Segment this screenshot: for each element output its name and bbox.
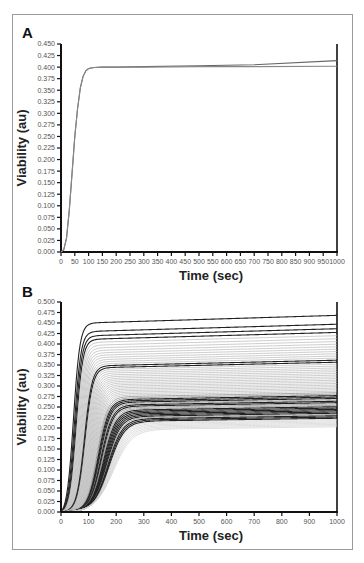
- x-tick-label: 200: [110, 258, 122, 265]
- x-tick-label: 500: [193, 258, 205, 265]
- y-tick-label: 0.200: [37, 156, 55, 163]
- y-tick-label: 0.425: [37, 52, 55, 59]
- x-tick-label: 0: [59, 518, 63, 525]
- y-tick-label: 0.400: [37, 64, 55, 71]
- y-tick-label: 0.150: [37, 445, 55, 452]
- x-tick-label: 300: [138, 518, 150, 525]
- chart-panel-b: 0.0000.0250.0500.0750.1000.1250.1500.175…: [14, 283, 345, 543]
- x-tick-label: 600: [221, 518, 233, 525]
- x-tick-label: 900: [304, 518, 316, 525]
- y-tick-label: 0.075: [37, 477, 55, 484]
- x-tick-label: 300: [138, 258, 150, 265]
- panel-label: B: [22, 283, 33, 300]
- y-tick-label: 0.400: [37, 340, 55, 347]
- y-tick-label: 0.250: [37, 403, 55, 410]
- x-tick-label: 600: [221, 258, 233, 265]
- y-tick-label: 0.075: [37, 214, 55, 221]
- x-tick-label: 500: [193, 518, 205, 525]
- y-tick-label: 0.100: [37, 202, 55, 209]
- y-tick-label: 0.375: [37, 351, 55, 358]
- x-tick-label: 400: [166, 518, 178, 525]
- y-tick-label: 0.325: [37, 98, 55, 105]
- x-tick-label: 1000: [329, 258, 345, 265]
- y-tick-label: 0.350: [37, 87, 55, 94]
- y-tick-label: 0.025: [37, 237, 55, 244]
- chart-panel-a: 0.0000.0250.0500.0750.1000.1250.1500.175…: [14, 24, 345, 283]
- x-tick-label: 800: [276, 258, 288, 265]
- x-tick-label: 350: [152, 258, 164, 265]
- series-line: [61, 61, 337, 252]
- y-axis-title: Viability (au): [14, 368, 29, 445]
- y-tick-label: 0.175: [37, 435, 55, 442]
- x-tick-label: 950: [317, 258, 329, 265]
- x-tick-label: 750: [262, 258, 274, 265]
- y-tick-label: 0.250: [37, 133, 55, 140]
- y-tick-label: 0.500: [37, 298, 55, 305]
- y-tick-label: 0.350: [37, 361, 55, 368]
- x-tick-label: 150: [97, 258, 109, 265]
- y-tick-label: 0.425: [37, 330, 55, 337]
- x-tick-label: 50: [71, 258, 79, 265]
- x-tick-label: 850: [290, 258, 302, 265]
- y-tick-label: 0.200: [37, 424, 55, 431]
- figure-svg: 0.0000.0250.0500.0750.1000.1250.1500.175…: [0, 0, 364, 563]
- y-tick-label: 0.275: [37, 393, 55, 400]
- panel-label: A: [22, 24, 33, 41]
- x-tick-label: 100: [83, 258, 95, 265]
- y-tick-label: 0.125: [37, 191, 55, 198]
- y-tick-label: 0.300: [37, 382, 55, 389]
- x-tick-label: 650: [235, 258, 247, 265]
- x-tick-label: 0: [59, 258, 63, 265]
- y-tick-label: 0.475: [37, 309, 55, 316]
- x-tick-label: 1000: [329, 518, 345, 525]
- x-tick-label: 700: [248, 518, 260, 525]
- y-tick-label: 0.025: [37, 498, 55, 505]
- x-tick-label: 900: [304, 258, 316, 265]
- x-axis-title: Time (sec): [179, 268, 243, 283]
- y-tick-label: 0.375: [37, 75, 55, 82]
- y-tick-label: 0.125: [37, 456, 55, 463]
- series-line: [61, 66, 337, 252]
- y-tick-label: 0.450: [37, 319, 55, 326]
- y-tick-label: 0.000: [37, 248, 55, 255]
- y-tick-label: 0.100: [37, 466, 55, 473]
- y-tick-label: 0.000: [37, 508, 55, 515]
- y-tick-label: 0.450: [37, 40, 55, 47]
- x-tick-label: 250: [124, 258, 136, 265]
- x-tick-label: 800: [276, 518, 288, 525]
- x-tick-label: 450: [179, 258, 191, 265]
- y-tick-label: 0.175: [37, 168, 55, 175]
- y-tick-label: 0.325: [37, 372, 55, 379]
- x-tick-label: 100: [83, 518, 95, 525]
- y-tick-label: 0.225: [37, 414, 55, 421]
- x-tick-label: 400: [166, 258, 178, 265]
- y-tick-label: 0.225: [37, 144, 55, 151]
- y-tick-label: 0.275: [37, 121, 55, 128]
- y-tick-label: 0.050: [37, 487, 55, 494]
- x-tick-label: 700: [248, 258, 260, 265]
- x-axis-title: Time (sec): [179, 528, 243, 543]
- y-tick-label: 0.150: [37, 179, 55, 186]
- x-tick-label: 550: [207, 258, 219, 265]
- y-axis-title: Viability (au): [14, 109, 29, 186]
- x-tick-label: 200: [110, 518, 122, 525]
- y-tick-label: 0.050: [37, 225, 55, 232]
- y-tick-label: 0.300: [37, 110, 55, 117]
